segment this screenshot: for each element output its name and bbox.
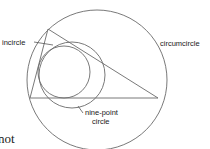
nine-point-label-line2: circle <box>92 117 110 126</box>
circumcircle <box>27 10 167 149</box>
circumcircle-label: circumcircle <box>160 39 200 48</box>
cropped-text-fragment: not <box>0 131 15 146</box>
incircle-label: incircle <box>2 38 25 47</box>
nine-point-label-line1: nine-point <box>85 108 119 117</box>
triangle <box>30 29 158 98</box>
triangle-circles-diagram: incircle circumcircle nine-point circle … <box>0 0 210 149</box>
incircle <box>38 46 90 98</box>
